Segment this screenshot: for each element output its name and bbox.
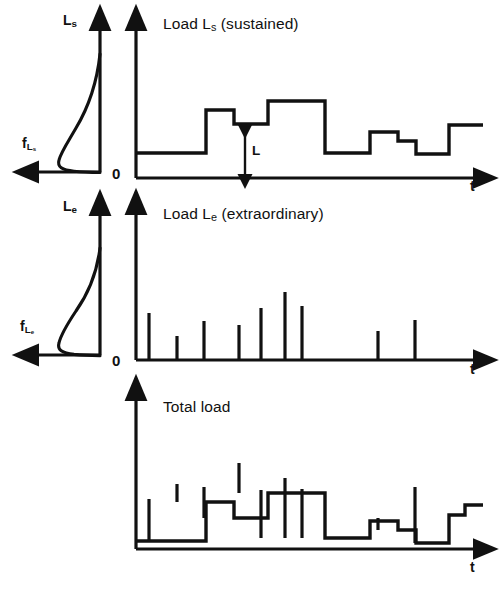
extraordinary-pdf-density-label: fLe [20,318,34,335]
sustained-step-trace [136,101,483,154]
sustained-x-axis-label: t [470,178,475,194]
sustained-pdf-plot [36,28,100,173]
sustained-load-plot [136,28,483,178]
total-step-trace [136,493,483,543]
sustained-pdf-curve [59,54,100,173]
sustained-pdf-axis-label: Ls [63,12,77,29]
sustained-origin-label: 0 [112,165,120,182]
extraordinary-pdf-axis-label: Le [63,198,77,215]
extraordinary-pdf-plot [36,213,100,356]
load-combination-figure [0,0,500,606]
sustained-pdf-density-label: fLs [22,135,36,152]
sustained-panel-title: Load Ls (sustained) [163,15,299,33]
total-x-axis-label: t [470,559,475,575]
extraordinary-panel-title: Load Le (extraordinary) [163,205,324,223]
panel-extraordinary [36,212,476,360]
sustained-L-annotation-label: L [252,143,260,158]
panel-total [136,398,483,549]
extraordinary-spikes [149,292,415,360]
extraordinary-x-axis-label: t [470,361,475,377]
extraordinary-origin-label: 0 [112,352,120,369]
total-panel-title: Total load [163,398,230,416]
extraordinary-load-plot [136,212,476,360]
total-spikes [149,463,415,543]
extraordinary-pdf-curve [59,248,100,356]
